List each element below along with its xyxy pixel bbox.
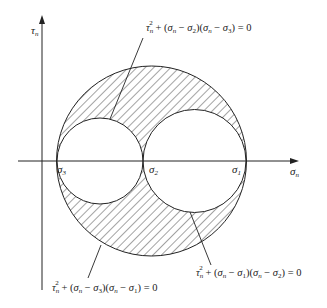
equation-bottom-left: τn2 + (σn − σ3)(σn − σ1) = 0 [52,279,157,295]
mohr-circle-diagram: τn σn σ3 σ2 σ1 τn2 + (σn − σ2)(σn − σ3) … [0,0,327,308]
equation-bottom-right: τn2 + (σn − σ1)(σn − σ2) = 0 [196,264,301,280]
hatched-admissible-region [0,0,327,308]
equation-top: τn2 + (σn − σ2)(σn − σ3) = 0 [146,19,251,35]
